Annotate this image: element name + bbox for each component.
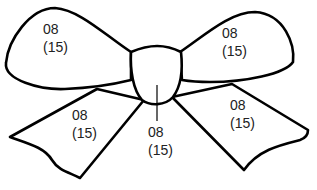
left-tail-code: 08 — [72, 106, 97, 124]
right-loop-label: 08 (15) — [222, 24, 247, 60]
left-loop-shape — [6, 8, 131, 89]
knot-qty: (15) — [148, 141, 173, 159]
left-tail-qty: (15) — [72, 124, 97, 142]
bow-diagram: 08 (15) 08 (15) 08 (15) 08 (15) 08 (15) — [0, 0, 317, 190]
right-tail-qty: (15) — [230, 114, 255, 132]
right-tail-code: 08 — [230, 96, 255, 114]
knot-label: 08 (15) — [148, 123, 173, 159]
left-loop-qty: (15) — [43, 38, 68, 56]
left-tail-label: 08 (15) — [72, 106, 97, 142]
left-loop-label: 08 (15) — [43, 20, 68, 56]
right-tail-label: 08 (15) — [230, 96, 255, 132]
right-loop-code: 08 — [222, 24, 247, 42]
left-loop-code: 08 — [43, 20, 68, 38]
knot-code: 08 — [148, 123, 173, 141]
knot-shape — [131, 46, 182, 104]
right-loop-qty: (15) — [222, 42, 247, 60]
